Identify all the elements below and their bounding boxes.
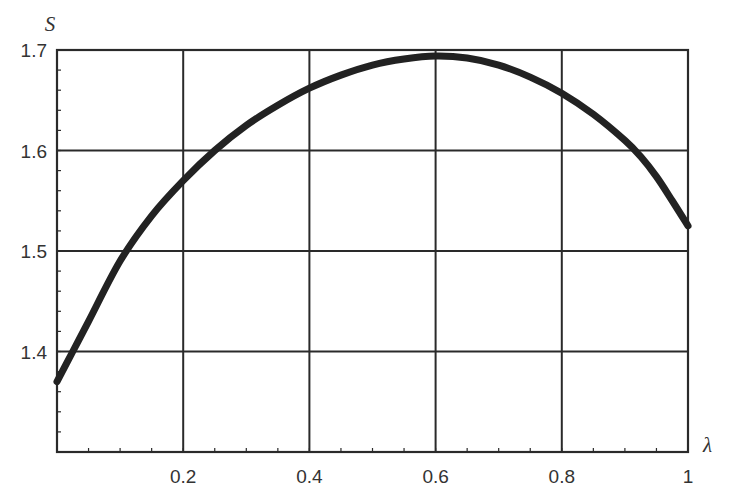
x-axis-tick-labels: 0.20.40.60.81 (170, 466, 693, 487)
x-tick-label: 0.2 (170, 466, 196, 487)
y-tick-label: 1.7 (21, 40, 47, 61)
x-tick-label: 0.8 (549, 466, 575, 487)
x-tick-label: 1 (683, 466, 694, 487)
y-axis-label: S (45, 12, 56, 36)
y-axis-tick-labels: 1.41.51.61.7 (21, 40, 48, 363)
x-tick-label: 0.4 (296, 466, 323, 487)
x-tick-label: 0.6 (422, 466, 448, 487)
y-tick-label: 1.6 (21, 141, 47, 162)
y-tick-label: 1.5 (21, 241, 47, 262)
y-tick-label: 1.4 (21, 342, 48, 363)
x-axis-label: λ (702, 433, 712, 457)
line-chart: 0.20.40.60.81 1.41.51.61.7 λ S (0, 0, 729, 502)
data-curve (57, 56, 688, 382)
